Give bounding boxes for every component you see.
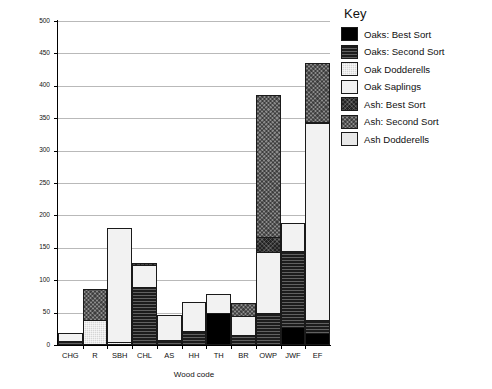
legend-label: Ash: Best Sort bbox=[364, 99, 425, 110]
x-tick-mark bbox=[132, 345, 133, 349]
x-tick-mark bbox=[107, 345, 108, 349]
bar-stack[interactable] bbox=[231, 303, 256, 345]
legend-item[interactable]: Oak Saplings bbox=[341, 80, 489, 94]
x-axis-title: Wood code bbox=[58, 370, 330, 379]
y-tick-label: 0 bbox=[20, 342, 50, 349]
bar-segment-oak-sap[interactable] bbox=[133, 266, 156, 288]
legend-swatch-ash-dodd-icon bbox=[341, 132, 358, 146]
y-tick-mark bbox=[54, 248, 57, 249]
bar-stack[interactable] bbox=[132, 263, 157, 345]
legend-swatch-oak-dodd-icon bbox=[341, 62, 358, 76]
legend-label: Oaks: Second Sort bbox=[364, 46, 445, 57]
legend-item[interactable]: Oak Dodderells bbox=[341, 62, 489, 76]
legend-swatch-ash-best-icon bbox=[341, 97, 358, 111]
legend-swatch-ash-second-icon bbox=[341, 115, 358, 129]
legend-item[interactable]: Ash Dodderells bbox=[341, 132, 489, 146]
bar-stack[interactable] bbox=[107, 228, 132, 345]
legend-label: Oaks: Best Sort bbox=[364, 29, 431, 40]
bar-segment-oak-best[interactable] bbox=[207, 314, 230, 344]
y-tick-label: 300 bbox=[20, 147, 50, 154]
y-tick-label: 100 bbox=[20, 277, 50, 284]
bar-segment-oak-second[interactable] bbox=[158, 341, 181, 344]
bar-segment-oak-sap[interactable] bbox=[108, 229, 131, 343]
y-tick-label: 150 bbox=[20, 244, 50, 251]
chart-figure: 050100150200250300350400450500 Number of… bbox=[0, 0, 492, 389]
y-tick-label: 250 bbox=[20, 180, 50, 187]
bar-segment-oak-sap[interactable] bbox=[59, 334, 82, 342]
bar-segment-oak-sap[interactable] bbox=[158, 316, 181, 341]
bar-segment-oak-dodd[interactable] bbox=[84, 321, 107, 344]
bar-stack[interactable] bbox=[256, 95, 281, 345]
y-tick-mark bbox=[54, 345, 57, 346]
x-tick-label-ef: EF bbox=[298, 351, 338, 360]
legend-item[interactable]: Oaks: Best Sort bbox=[341, 27, 489, 41]
legend-item[interactable]: Ash: Best Sort bbox=[341, 97, 489, 111]
bar-segment-ash-second[interactable] bbox=[84, 290, 107, 320]
y-tick-mark bbox=[54, 215, 57, 216]
y-tick-mark bbox=[54, 151, 57, 152]
bar-segment-oak-second[interactable] bbox=[257, 314, 280, 344]
y-tick-label: 400 bbox=[20, 82, 50, 89]
legend-label: Ash Dodderells bbox=[364, 134, 429, 145]
legend-swatch-oak-sap-icon bbox=[341, 80, 358, 94]
y-tick-label: 50 bbox=[20, 309, 50, 316]
bar-stack[interactable] bbox=[157, 315, 182, 345]
bar-stack[interactable] bbox=[83, 289, 108, 345]
bar-segment-oak-second[interactable] bbox=[282, 252, 305, 328]
bar-segment-ash-second[interactable] bbox=[257, 96, 280, 239]
bar-segment-oak-sap[interactable] bbox=[282, 224, 305, 253]
bar-stack[interactable] bbox=[182, 302, 207, 345]
legend: Key Oaks: Best SortOaks: Second SortOak … bbox=[341, 6, 489, 150]
bar-stack[interactable] bbox=[206, 294, 231, 345]
bar-segment-oak-dodd[interactable] bbox=[108, 343, 131, 344]
bar-segment-ash-second[interactable] bbox=[306, 64, 329, 123]
legend-label: Oak Saplings bbox=[364, 81, 421, 92]
bar-stack[interactable] bbox=[281, 223, 306, 346]
y-tick-mark bbox=[54, 21, 57, 22]
bar-segment-oak-second[interactable] bbox=[183, 332, 206, 344]
y-tick-label: 450 bbox=[20, 50, 50, 57]
bar-stack[interactable] bbox=[58, 333, 83, 345]
bar-segment-oak-second[interactable] bbox=[232, 336, 255, 344]
y-tick-mark bbox=[54, 118, 57, 119]
legend-title: Key bbox=[344, 6, 489, 21]
bar-segment-oak-second[interactable] bbox=[59, 342, 82, 344]
y-tick-mark bbox=[54, 183, 57, 184]
legend-label: Oak Dodderells bbox=[364, 64, 430, 75]
bar-segment-oak-sap[interactable] bbox=[257, 253, 280, 314]
x-axis-line bbox=[57, 345, 331, 346]
y-tick-label: 350 bbox=[20, 115, 50, 122]
legend-items: Oaks: Best SortOaks: Second SortOak Dodd… bbox=[341, 27, 489, 146]
bar-segment-oak-best[interactable] bbox=[282, 328, 305, 344]
bar-segment-oak-sap[interactable] bbox=[183, 303, 206, 332]
y-tick-mark bbox=[54, 313, 57, 314]
bar-series-group bbox=[58, 21, 330, 345]
x-tick-mark bbox=[206, 345, 207, 349]
bar-stack[interactable] bbox=[305, 63, 330, 345]
legend-swatch-oak-best-icon bbox=[341, 27, 358, 41]
bar-segment-oak-second[interactable] bbox=[306, 321, 329, 334]
y-tick-mark bbox=[54, 53, 57, 54]
x-tick-mark bbox=[157, 345, 158, 349]
x-tick-mark bbox=[182, 345, 183, 349]
x-tick-mark bbox=[83, 345, 84, 349]
bar-segment-ash-second[interactable] bbox=[232, 304, 255, 318]
bar-segment-oak-second[interactable] bbox=[133, 288, 156, 344]
x-tick-mark bbox=[305, 345, 306, 349]
x-tick-mark bbox=[281, 345, 282, 349]
y-tick-label: 200 bbox=[20, 212, 50, 219]
bar-segment-oak-best[interactable] bbox=[306, 334, 329, 344]
bar-segment-ash-best[interactable] bbox=[257, 238, 280, 252]
legend-item[interactable]: Oaks: Second Sort bbox=[341, 45, 489, 59]
x-tick-mark bbox=[231, 345, 232, 349]
legend-swatch-oak-second-icon bbox=[341, 45, 358, 59]
bar-segment-oak-sap[interactable] bbox=[306, 124, 329, 320]
y-tick-mark bbox=[54, 280, 57, 281]
y-tick-mark bbox=[54, 86, 57, 87]
legend-label: Ash: Second Sort bbox=[364, 116, 439, 127]
bar-segment-oak-sap[interactable] bbox=[232, 317, 255, 336]
bar-segment-oak-sap[interactable] bbox=[207, 295, 230, 313]
x-tick-mark bbox=[256, 345, 257, 349]
y-tick-label: 500 bbox=[20, 18, 50, 25]
legend-item[interactable]: Ash: Second Sort bbox=[341, 115, 489, 129]
